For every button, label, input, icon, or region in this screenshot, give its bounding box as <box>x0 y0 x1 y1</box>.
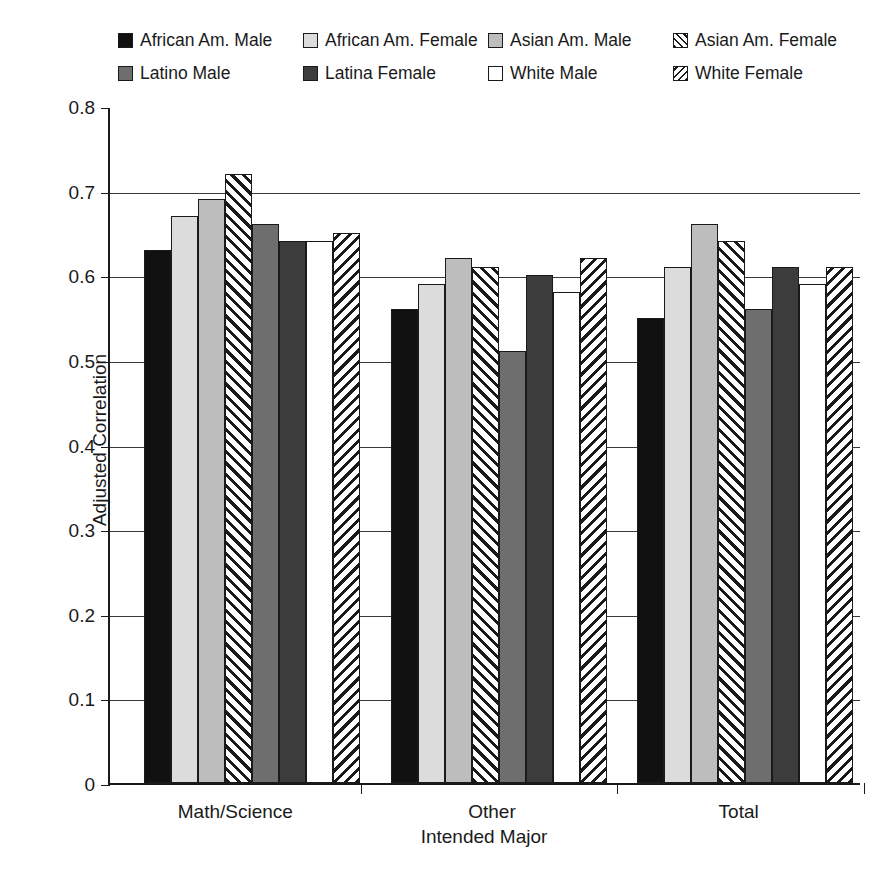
y-axis-tick <box>101 362 110 363</box>
x-axis-tick-label: Other <box>468 801 516 823</box>
legend-label: African Am. Male <box>140 32 272 50</box>
legend-item[interactable]: Asian Am. Male <box>488 32 673 50</box>
y-axis-tick-label: 0.1 <box>69 689 95 711</box>
y-axis-tick-label: 0.3 <box>69 520 95 542</box>
legend-item[interactable]: African Am. Male <box>118 32 303 50</box>
bar-groups: Math/ScienceOtherTotal <box>110 108 860 783</box>
legend-swatch-icon <box>303 33 318 48</box>
bar-chart: African Am. MaleAfrican Am. FemaleAsian … <box>0 0 878 879</box>
bar-group: Math/Science <box>110 108 367 783</box>
x-axis-tick <box>361 783 362 794</box>
bar[interactable] <box>472 267 499 783</box>
bar[interactable] <box>826 267 853 783</box>
y-axis-tick-label: 0.8 <box>69 97 95 119</box>
bar[interactable] <box>718 241 745 783</box>
y-axis-tick <box>101 193 110 194</box>
bar[interactable] <box>198 199 225 783</box>
bar[interactable] <box>252 224 279 783</box>
y-axis-tick <box>101 108 110 109</box>
y-axis-tick <box>101 447 110 448</box>
bar[interactable] <box>144 250 171 783</box>
y-axis-tick <box>101 700 110 701</box>
legend-label: Latino Male <box>140 65 230 83</box>
legend-swatch-icon <box>303 66 318 81</box>
x-axis-tick-label: Math/Science <box>178 801 293 823</box>
bar[interactable] <box>499 351 526 783</box>
legend-swatch-icon <box>673 66 688 81</box>
legend-label: Latina Female <box>325 65 436 83</box>
legend-label: White Female <box>695 65 803 83</box>
plot-area: 00.10.20.30.40.50.60.70.8 Math/ScienceOt… <box>108 108 860 785</box>
bar[interactable] <box>745 309 772 783</box>
bar[interactable] <box>171 216 198 783</box>
chart-legend: African Am. MaleAfrican Am. FemaleAsian … <box>118 24 858 90</box>
bar[interactable] <box>333 233 360 783</box>
y-axis-tick-label: 0.6 <box>69 266 95 288</box>
bar[interactable] <box>445 258 472 783</box>
y-axis-tick <box>101 785 110 786</box>
legend-label: Asian Am. Male <box>510 32 632 50</box>
legend-swatch-icon <box>673 33 688 48</box>
legend-item[interactable]: Latina Female <box>303 65 488 83</box>
bar[interactable] <box>225 174 252 783</box>
legend-item[interactable]: African Am. Female <box>303 32 488 50</box>
bar[interactable] <box>391 309 418 783</box>
legend-label: African Am. Female <box>325 32 478 50</box>
x-axis-tick <box>617 783 618 794</box>
bar[interactable] <box>637 318 664 783</box>
legend-item[interactable]: Asian Am. Female <box>673 32 858 50</box>
legend-label: Asian Am. Female <box>695 32 837 50</box>
bar-group: Other <box>367 108 614 783</box>
bar[interactable] <box>799 284 826 783</box>
y-axis-tick <box>101 531 110 532</box>
bar[interactable] <box>664 267 691 783</box>
bar[interactable] <box>418 284 445 783</box>
x-axis-tick <box>864 783 865 794</box>
y-axis-tick <box>101 616 110 617</box>
legend-item[interactable]: Latino Male <box>118 65 303 83</box>
bar[interactable] <box>279 241 306 783</box>
legend-item[interactable]: White Female <box>673 65 858 83</box>
bar[interactable] <box>691 224 718 783</box>
legend-swatch-icon <box>488 33 503 48</box>
y-axis-tick <box>101 277 110 278</box>
y-axis-tick-label: 0.5 <box>69 351 95 373</box>
bar[interactable] <box>580 258 607 783</box>
y-axis-tick-label: 0.7 <box>69 182 95 204</box>
y-axis-tick-label: 0.4 <box>69 436 95 458</box>
legend-item[interactable]: White Male <box>488 65 673 83</box>
legend-label: White Male <box>510 65 598 83</box>
legend-swatch-icon <box>488 66 503 81</box>
y-axis-tick-label: 0.2 <box>69 605 95 627</box>
bar[interactable] <box>553 292 580 783</box>
bar[interactable] <box>526 275 553 783</box>
x-axis-title: Intended Major <box>108 826 860 848</box>
bar[interactable] <box>772 267 799 783</box>
x-axis-tick-label: Total <box>719 801 759 823</box>
bar-group: Total <box>613 108 860 783</box>
bar[interactable] <box>306 241 333 783</box>
legend-swatch-icon <box>118 33 133 48</box>
legend-swatch-icon <box>118 66 133 81</box>
y-axis-tick-label: 0 <box>84 774 95 796</box>
